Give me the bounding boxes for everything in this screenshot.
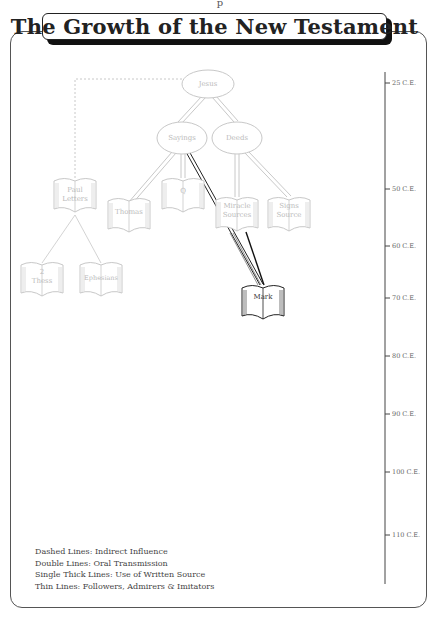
legend-dashed: Dashed Lines: Indirect Influence: [35, 546, 214, 558]
label-q: Q: [180, 187, 186, 195]
label-signs-2: Source: [277, 211, 302, 219]
tick-80ce: 80 C.E.: [392, 352, 416, 360]
legend-double: Double Lines: Oral Transmission: [35, 558, 214, 570]
label-mark: Mark: [254, 293, 274, 301]
thin-lines: [42, 215, 101, 263]
diagram-canvas: Jesus Sayings Deeds Paul Letters Thomas …: [0, 0, 436, 617]
legend-thick: Single Thick Lines: Use of Written Sourc…: [35, 569, 214, 581]
tick-60ce: 60 C.E.: [392, 242, 416, 250]
label-ephesians: Ephesians: [84, 274, 118, 282]
tick-90ce: 90 C.E.: [392, 410, 416, 418]
label-signs-1: Signs: [279, 202, 299, 210]
label-paul-1: Paul: [67, 186, 83, 194]
tick-70ce: 70 C.E.: [392, 294, 416, 302]
label-miracle-1: Miracle: [223, 202, 250, 210]
label-miracle-2: Sources: [223, 211, 252, 219]
legend-thin: Thin Lines: Followers, Admirers & Imitat…: [35, 581, 214, 593]
book-q: [162, 179, 204, 213]
label-deeds: Deeds: [226, 134, 248, 142]
label-thess-2: Thess: [32, 277, 53, 285]
label-thess-1: 2: [40, 268, 44, 276]
timeline-axis: [385, 72, 390, 584]
tick-25ce: 25 C.E.: [392, 79, 416, 87]
label-jesus: Jesus: [198, 80, 218, 88]
label-sayings: Sayings: [168, 134, 196, 142]
tick-100ce: 100 C.E.: [392, 468, 420, 476]
label-thomas: Thomas: [115, 208, 143, 216]
label-paul-2: Letters: [62, 195, 88, 203]
legend: Dashed Lines: Indirect Influence Double …: [35, 546, 214, 592]
tick-50ce: 50 C.E.: [392, 185, 416, 193]
tick-110ce: 110 C.E.: [392, 531, 420, 539]
book-mark: [242, 286, 284, 320]
